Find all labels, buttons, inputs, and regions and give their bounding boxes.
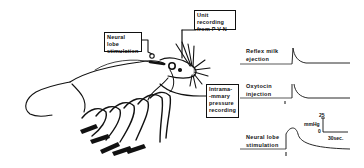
box-line: -mmary [209, 93, 236, 100]
label-line: Neural lobe [246, 133, 279, 141]
trace-label-reflex: Reflex milk ejection [246, 47, 278, 63]
neural-lobe-stimulation-box: Neural lobe stimulation [104, 32, 142, 52]
box-line: from P V N [197, 26, 233, 33]
box-line: Unit recording [197, 12, 233, 26]
label-line: injection [246, 90, 272, 98]
box-line: Neural lobe [107, 34, 139, 48]
label-line: Oxytocin [246, 82, 272, 90]
scale-unit: mmHg [304, 121, 320, 127]
label-line: ejection [246, 55, 278, 63]
trace-label-neural-lobe: Neural lobe stimulation [246, 133, 279, 149]
milk-ejection-figure: Neural lobe stimulation Unit recording f… [0, 0, 364, 168]
unit-recording-box: Unit recording from P V N [194, 10, 236, 30]
box-line: stimulation [107, 48, 139, 55]
box-line: recording [209, 107, 236, 114]
box-line: Intrama- [209, 86, 236, 93]
box-line: pressure [209, 100, 236, 107]
intramammary-pressure-box: Intrama- -mmary pressure recording [206, 84, 239, 118]
scale-bottom-value: 0 [318, 128, 321, 134]
trace-label-oxytocin: Oxytocin injection [246, 82, 272, 98]
label-line: stimulation [246, 141, 279, 149]
rat-tail [26, 82, 70, 116]
scale-time: 30sec. [328, 135, 343, 141]
rat-experiment-drawing [0, 0, 364, 168]
scale-top-value: 25 [319, 112, 325, 118]
label-line: Reflex milk [246, 47, 278, 55]
